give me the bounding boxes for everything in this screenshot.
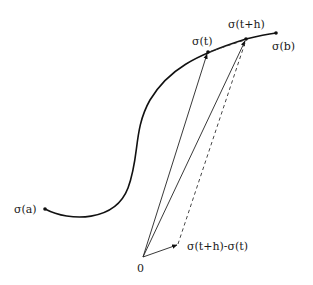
vector-sigma-t [143,54,207,257]
label-sigma-t: σ(t) [192,35,213,48]
point-sigma-b [274,31,278,35]
label-difference: σ(t+h)-σ(t) [187,240,248,253]
label-origin: 0 [137,262,144,275]
point-sigma-a [43,207,47,211]
curve-secant-diagram: σ(a) σ(t) σ(t+h) σ(b) 0 σ(t+h)-σ(t) [0,0,313,285]
vector-sigma-t-plus-h [143,41,245,257]
label-sigma-t-plus-h: σ(t+h) [228,18,265,31]
dashed-parallel-side [178,40,246,244]
label-sigma-b: σ(b) [272,40,295,53]
label-sigma-a: σ(a) [14,203,37,216]
curve-sigma [45,33,276,217]
